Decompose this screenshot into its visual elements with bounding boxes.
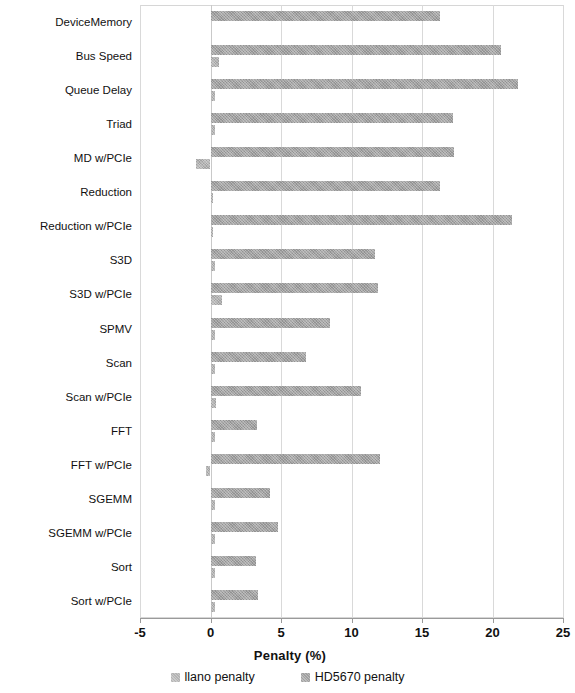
gridline [563, 5, 564, 618]
y-axis-label: Reduction [0, 186, 132, 198]
bar-hd5670 [211, 386, 362, 396]
bar-hd5670 [211, 45, 501, 55]
bar-hd5670 [211, 556, 256, 566]
x-axis-tick [563, 618, 564, 623]
x-axis-tick-label: 20 [473, 625, 513, 641]
bar-hd5670 [211, 352, 307, 362]
x-axis-tick [352, 618, 353, 623]
legend-label: HD5670 penalty [315, 670, 405, 684]
y-axis-label: SPMV [0, 323, 132, 335]
bar-llano [211, 261, 215, 271]
bar-llano [211, 91, 215, 101]
bar-llano [196, 159, 210, 169]
x-axis-tick-label: 15 [402, 625, 442, 641]
x-axis-tick [211, 618, 212, 623]
plot-area [140, 5, 563, 618]
x-axis-tick-label: 5 [261, 625, 301, 641]
y-axis-label: Sort w/PCIe [0, 595, 132, 607]
bar-llano [211, 602, 215, 612]
bar-llano [211, 295, 222, 305]
gridline [493, 5, 494, 618]
bar-llano [211, 193, 214, 203]
bar-hd5670 [211, 318, 331, 328]
legend-item-hd5670: HD5670 penalty [301, 670, 405, 684]
y-axis-label: FFT [0, 425, 132, 437]
y-axis-label: DeviceMemory [0, 16, 132, 28]
bar-llano [211, 568, 215, 578]
bar-llano [211, 500, 215, 510]
legend-swatch-icon [301, 673, 310, 682]
x-axis-tick [422, 618, 423, 623]
chart-legend: llano penalty HD5670 penalty [0, 670, 575, 684]
bar-llano [211, 534, 215, 544]
legend-item-llano: llano penalty [171, 670, 255, 684]
bar-llano [211, 57, 219, 67]
bar-hd5670 [211, 590, 259, 600]
bar-hd5670 [211, 488, 270, 498]
bar-llano [211, 125, 215, 135]
penalty-bar-chart: DeviceMemoryBus SpeedQueue DelayTriadMD … [0, 0, 575, 693]
x-axis-tick [281, 618, 282, 623]
x-axis-tick [140, 618, 141, 623]
bar-llano [211, 364, 215, 374]
y-axis-label: Queue Delay [0, 84, 132, 96]
x-axis-tick-label: 0 [191, 625, 231, 641]
bar-hd5670 [211, 249, 376, 259]
bar-llano [211, 227, 214, 237]
legend-swatch-icon [171, 673, 180, 682]
y-axis-label: Sort [0, 561, 132, 573]
bar-hd5670 [211, 283, 379, 293]
bar-hd5670 [211, 147, 455, 157]
bar-llano [211, 432, 215, 442]
x-axis-tick-label: 25 [543, 625, 575, 641]
y-axis-label: Scan w/PCIe [0, 391, 132, 403]
bar-llano [211, 398, 217, 408]
x-axis-tick-label: -5 [120, 625, 160, 641]
x-axis-tick-label: 10 [332, 625, 372, 641]
y-axis-label: SGEMM w/PCIe [0, 527, 132, 539]
bar-hd5670 [211, 522, 279, 532]
y-axis-label: SGEMM [0, 493, 132, 505]
y-axis-label: S3D [0, 254, 132, 266]
y-axis-label: Triad [0, 118, 132, 130]
gridline [140, 5, 141, 618]
y-axis-label: Reduction w/PCIe [0, 220, 132, 232]
x-axis-tick [493, 618, 494, 623]
y-axis-label: S3D w/PCIe [0, 288, 132, 300]
bar-hd5670 [211, 79, 518, 89]
bar-hd5670 [211, 181, 441, 191]
y-axis-label: MD w/PCIe [0, 152, 132, 164]
legend-label: llano penalty [185, 670, 255, 684]
bar-hd5670 [211, 11, 441, 21]
y-axis-label: FFT w/PCIe [0, 459, 132, 471]
gridline [352, 5, 353, 618]
bar-llano [206, 466, 210, 476]
x-axis-title: Penalty (%) [60, 648, 520, 663]
y-axis-label: Scan [0, 357, 132, 369]
bar-hd5670 [211, 420, 258, 430]
gridline [422, 5, 423, 618]
bar-hd5670 [211, 215, 513, 225]
gridline [281, 5, 282, 618]
bar-llano [211, 330, 215, 340]
y-axis-label: Bus Speed [0, 50, 132, 62]
bar-hd5670 [211, 113, 454, 123]
bar-hd5670 [211, 454, 380, 464]
